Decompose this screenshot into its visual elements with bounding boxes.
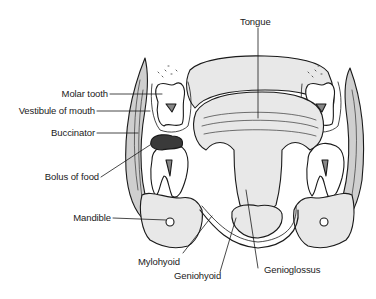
tongue-shape <box>194 92 324 213</box>
bolus-of-food <box>151 135 183 150</box>
label-mandible: Mandible <box>73 212 111 223</box>
label-geniohyoid: Geniohyoid <box>174 270 221 281</box>
label-molar-tooth: Molar tooth <box>62 88 108 99</box>
label-tongue: Tongue <box>240 16 271 27</box>
label-buccinator: Buccinator <box>51 127 95 138</box>
geniohyoid-shape <box>232 205 282 238</box>
label-vestibule-of-mouth: Vestibule of mouth <box>19 105 95 116</box>
label-genioglossus: Genioglossus <box>264 264 320 275</box>
label-mylohyoid: Mylohyoid <box>138 256 180 267</box>
oral-cavity-diagram: Tongue Molar tooth Vestibule of mouth Bu… <box>0 0 376 299</box>
anatomy-illustration <box>0 0 376 299</box>
leader-geniohyoid <box>220 218 236 272</box>
label-bolus-of-food: Bolus of food <box>45 171 99 182</box>
